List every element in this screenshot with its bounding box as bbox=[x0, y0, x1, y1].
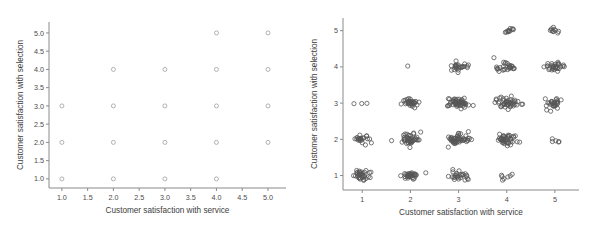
data-point bbox=[111, 104, 115, 108]
data-point bbox=[163, 177, 167, 181]
data-point bbox=[389, 139, 393, 143]
y-axis-title: Customer satisfaction with selection bbox=[16, 39, 25, 170]
x-axis-title: Customer satisfaction with service bbox=[106, 206, 230, 215]
y-tick-label: 4.0 bbox=[34, 65, 44, 74]
x-tick-label: 3.5 bbox=[186, 193, 196, 202]
data-point bbox=[419, 130, 423, 134]
data-point bbox=[543, 97, 547, 101]
data-point bbox=[266, 104, 270, 108]
data-point bbox=[365, 101, 369, 105]
data-point bbox=[111, 140, 115, 144]
x-tick-label: 1.5 bbox=[83, 193, 93, 202]
data-point bbox=[369, 141, 373, 145]
x-axis-title: Customer satisfaction with service bbox=[399, 208, 523, 217]
data-points-group bbox=[60, 31, 270, 181]
data-point bbox=[214, 67, 218, 71]
data-point bbox=[466, 130, 470, 134]
data-point bbox=[111, 177, 115, 181]
data-point bbox=[545, 108, 549, 112]
data-points-group bbox=[351, 25, 566, 182]
data-point bbox=[266, 31, 270, 35]
y-tick-label: 1.0 bbox=[34, 174, 44, 183]
x-tick-label: 1 bbox=[360, 195, 364, 204]
data-point bbox=[214, 177, 218, 181]
y-tick-label: 2 bbox=[334, 135, 338, 144]
data-point bbox=[408, 145, 412, 149]
x-tick-label: 4.5 bbox=[237, 193, 247, 202]
data-point bbox=[214, 140, 218, 144]
y-tick-label: 3 bbox=[334, 99, 338, 108]
data-point bbox=[446, 145, 450, 149]
x-tick-label: 5.0 bbox=[263, 193, 273, 202]
scatter-panel-left: 1.01.52.02.53.03.54.04.55.01.01.52.02.53… bbox=[0, 0, 296, 231]
data-point bbox=[163, 140, 167, 144]
scatter-plot-left-svg: 1.01.52.02.53.03.54.04.55.01.01.52.02.53… bbox=[0, 0, 296, 231]
x-tick-label: 4 bbox=[505, 195, 509, 204]
data-point bbox=[403, 172, 407, 176]
x-tick-label: 2.0 bbox=[108, 193, 118, 202]
data-point bbox=[60, 177, 64, 181]
x-tick-label: 1.0 bbox=[57, 193, 67, 202]
y-tick-label: 3.5 bbox=[34, 83, 44, 92]
data-point bbox=[360, 101, 364, 105]
data-point bbox=[424, 171, 428, 175]
data-point bbox=[399, 102, 403, 106]
y-tick-label: 3.0 bbox=[34, 102, 44, 111]
y-tick-label: 4 bbox=[334, 62, 338, 71]
x-tick-label: 5 bbox=[553, 195, 557, 204]
x-tick-label: 4.0 bbox=[211, 193, 221, 202]
y-tick-label: 2.0 bbox=[34, 138, 44, 147]
data-point bbox=[214, 31, 218, 35]
y-tick-label: 1 bbox=[334, 171, 338, 180]
data-point bbox=[111, 67, 115, 71]
data-point bbox=[266, 67, 270, 71]
x-tick-label: 2 bbox=[408, 195, 412, 204]
data-point bbox=[163, 104, 167, 108]
data-point bbox=[60, 104, 64, 108]
data-point bbox=[471, 103, 475, 107]
data-point bbox=[449, 68, 453, 72]
data-point bbox=[466, 63, 470, 67]
data-point bbox=[214, 104, 218, 108]
data-point bbox=[454, 59, 458, 63]
x-tick-label: 3.0 bbox=[160, 193, 170, 202]
y-tick-label: 5 bbox=[334, 26, 338, 35]
y-axis-title: Customer satisfaction with selection bbox=[310, 38, 319, 169]
data-point bbox=[363, 143, 367, 147]
data-point bbox=[60, 140, 64, 144]
y-tick-label: 1.5 bbox=[34, 156, 44, 165]
scatter-panel-right: 1234512345Customer satisfaction with ser… bbox=[297, 0, 593, 231]
data-point bbox=[266, 140, 270, 144]
x-tick-label: 2.5 bbox=[134, 193, 144, 202]
data-point bbox=[492, 56, 496, 60]
x-tick-label: 3 bbox=[457, 195, 461, 204]
data-point bbox=[352, 102, 356, 106]
y-tick-label: 2.5 bbox=[34, 120, 44, 129]
scatter-plot-right-svg: 1234512345Customer satisfaction with ser… bbox=[297, 0, 593, 231]
y-tick-label: 5.0 bbox=[34, 29, 44, 38]
data-point bbox=[163, 67, 167, 71]
data-point bbox=[406, 64, 410, 68]
figure-container: 1.01.52.02.53.03.54.04.55.01.01.52.02.53… bbox=[0, 0, 593, 231]
y-tick-label: 4.5 bbox=[34, 47, 44, 56]
data-point bbox=[457, 169, 461, 173]
data-point bbox=[399, 174, 403, 178]
